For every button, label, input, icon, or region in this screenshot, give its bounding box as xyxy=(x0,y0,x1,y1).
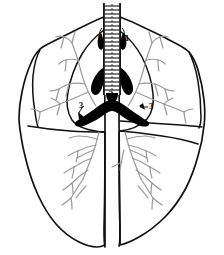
label-3-left: 3 xyxy=(79,100,84,110)
trachea xyxy=(104,3,120,95)
left-mediastinal-border xyxy=(104,132,105,247)
label-1-left: 1 xyxy=(97,33,102,43)
anatomy-figure: 1 1 2 3 3 xyxy=(0,0,224,255)
label-2: 2 xyxy=(109,89,114,99)
label-3-right: 3 xyxy=(149,101,154,111)
label-1-right: 1 xyxy=(125,33,130,43)
lung-anatomy-illustration: 1 1 2 3 3 xyxy=(0,0,224,255)
right-mediastinal-border xyxy=(119,132,120,246)
